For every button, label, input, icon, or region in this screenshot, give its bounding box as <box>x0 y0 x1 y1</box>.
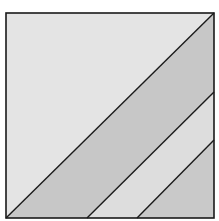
diagram-canvas <box>0 0 219 221</box>
